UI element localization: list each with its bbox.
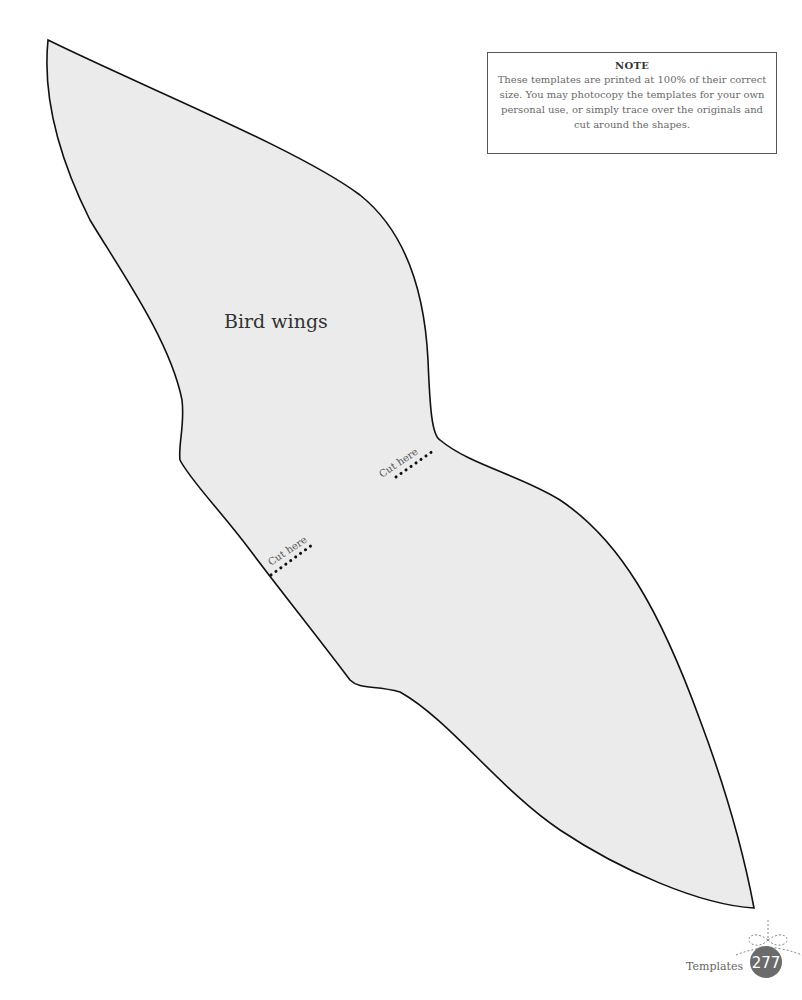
- note-title: NOTE: [488, 60, 776, 71]
- note-box: NOTE These templates are printed at 100%…: [487, 52, 777, 154]
- footer-section-label: Templates: [686, 960, 743, 973]
- page-number: 277: [752, 954, 781, 972]
- note-body: These templates are printed at 100% of t…: [488, 72, 776, 132]
- template-title: Bird wings: [224, 310, 328, 332]
